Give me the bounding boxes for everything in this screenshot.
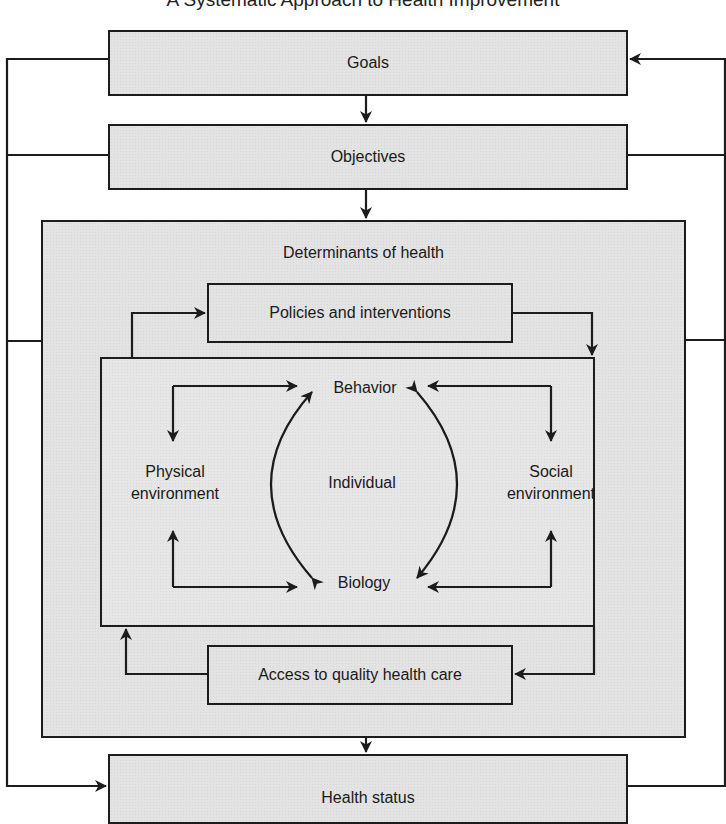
left-feedback-line xyxy=(7,59,108,786)
